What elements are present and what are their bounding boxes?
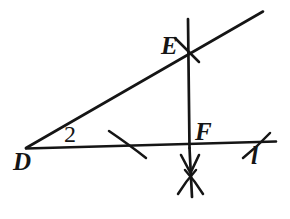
diagram-canvas: [0, 0, 290, 219]
label-angle-2: 2: [64, 122, 76, 146]
label-line-l: l: [251, 143, 258, 168]
geometry-figure: D 2 E F l: [0, 0, 290, 219]
label-point-f: F: [195, 119, 212, 144]
ray-d-e: [26, 12, 263, 149]
label-point-d: D: [13, 149, 31, 174]
label-point-e: E: [161, 33, 178, 58]
perpendicular-line-ef: [188, 19, 190, 148]
